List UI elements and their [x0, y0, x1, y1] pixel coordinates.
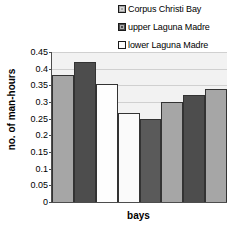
y-axis-tick-label: 0	[43, 198, 48, 207]
legend-swatch-icon	[118, 23, 126, 31]
bar	[74, 62, 96, 202]
y-axis-tick-label: 0.25	[30, 114, 48, 123]
legend-item-corpus-christi-bay: Corpus Christi Bay	[118, 3, 201, 14]
legend-item-lower-laguna-madre: lower Laguna Madre	[118, 39, 208, 50]
bar	[205, 89, 227, 202]
legend-label: upper Laguna Madre	[128, 22, 210, 32]
y-axis-tick-label: 0.4	[35, 64, 48, 73]
bar	[161, 102, 183, 202]
y-axis-tick-labels: 0.450.40.350.30.250.20.150.10.050	[14, 52, 48, 202]
y-axis-tick-label: 0.45	[30, 48, 48, 57]
legend-label: lower Laguna Madre	[128, 40, 208, 50]
bar	[96, 84, 118, 202]
legend-swatch-icon	[118, 41, 126, 49]
bar	[52, 75, 74, 202]
bar-chart: no. of man-hours 0.450.40.350.30.250.20.…	[0, 52, 243, 234]
bar	[183, 95, 205, 202]
bar-group	[52, 52, 227, 202]
chart-legend: Corpus Christi Bay upper Laguna Madre lo…	[0, 0, 243, 52]
x-axis-title: bays	[51, 210, 226, 221]
plot-area	[51, 52, 227, 203]
y-axis-tickmark	[49, 202, 52, 203]
bar	[118, 113, 140, 202]
legend-label: Corpus Christi Bay	[128, 4, 201, 14]
y-axis-tick-label: 0.35	[30, 81, 48, 90]
y-axis-tick-label: 0.1	[35, 164, 48, 173]
bar	[140, 119, 162, 202]
y-axis-tick-label: 0.15	[30, 148, 48, 157]
y-axis-tick-label: 0.05	[30, 181, 48, 190]
legend-item-upper-laguna-madre: upper Laguna Madre	[118, 21, 210, 32]
y-axis-tick-label: 0.3	[35, 98, 48, 107]
legend-swatch-icon	[118, 5, 126, 13]
y-axis-tick-label: 0.2	[35, 131, 48, 140]
